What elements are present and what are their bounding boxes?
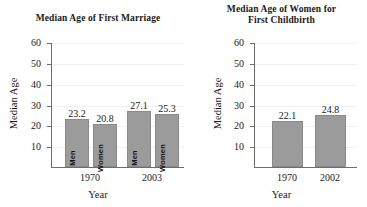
x-tick-label-left-1970: 1970 — [80, 172, 100, 183]
y-tick-label-right-40: 40 — [234, 80, 244, 90]
bar-2003-men[interactable]: 27.1 Men — [127, 111, 151, 167]
chart-title-first-marriage: Median Age of First Marriage — [0, 13, 196, 24]
bar-value-2003-women: 25.3 — [158, 103, 176, 114]
y-tick-label-left-10: 10 — [31, 142, 41, 152]
chart-title-line-2: First Childbirth — [196, 15, 367, 26]
y-tick-label-left-30: 30 — [31, 101, 41, 111]
y-tick-right-30: 30 — [250, 106, 254, 107]
y-axis-label-left: Median Age — [8, 74, 19, 134]
y-tick-right-60: 60 — [250, 43, 254, 44]
bar-value-2003-men: 27.1 — [130, 100, 148, 111]
y-tick-left-10: 10 — [47, 147, 51, 148]
plot-area-right: 60 50 40 30 20 10 — [254, 43, 357, 168]
y-tick-right-50: 50 — [250, 64, 254, 65]
plot-area-left: 60 50 40 30 20 10 — [51, 43, 184, 168]
bar-value-1970-childbirth: 22.1 — [279, 110, 297, 121]
y-tick-right-10: 10 — [250, 147, 254, 148]
bar-value-1970-women: 20.8 — [96, 113, 114, 124]
y-tick-left-30: 30 — [47, 106, 51, 107]
y-tick-right-40: 40 — [250, 85, 254, 86]
figure-container: Median Age of First Marriage Median Age … — [0, 0, 367, 207]
bar-label-2003-women: Women — [158, 144, 167, 172]
bar-value-1970-men: 23.2 — [68, 108, 86, 119]
y-tick-label-right-60: 60 — [234, 38, 244, 48]
bar-label-2003-men: Men — [130, 150, 139, 166]
y-tick-label-left-60: 60 — [31, 38, 41, 48]
chart-panel-first-childbirth: Median Age of Women for First Childbirth… — [196, 0, 367, 207]
y-tick-right-20: 20 — [250, 126, 254, 127]
x-tick-label-left-2003: 2003 — [142, 172, 162, 183]
bar-1970-childbirth[interactable]: 22.1 — [272, 121, 303, 167]
x-axis-line-right — [254, 167, 357, 168]
bar-2003-women[interactable]: 25.3 Women — [155, 114, 179, 167]
y-tick-label-left-20: 20 — [31, 121, 41, 131]
chart-panel-first-marriage: Median Age of First Marriage Median Age … — [0, 0, 196, 207]
y-tick-left-60: 60 — [47, 43, 51, 44]
y-tick-label-left-40: 40 — [31, 80, 41, 90]
y-tick-label-left-50: 50 — [31, 59, 41, 69]
bar-1970-men[interactable]: 23.2 Men — [65, 119, 89, 167]
bar-1970-women[interactable]: 20.8 Women — [93, 124, 117, 167]
x-axis-label-left: Year — [0, 189, 196, 200]
bar-value-2002-childbirth: 24.8 — [322, 104, 340, 115]
y-tick-label-right-20: 20 — [234, 121, 244, 131]
chart-title-line-1: Median Age of Women for — [196, 4, 367, 15]
bar-2002-childbirth[interactable]: 24.8 — [315, 115, 346, 167]
x-tick-label-right-2002: 2002 — [320, 172, 340, 183]
y-tick-left-20: 20 — [47, 126, 51, 127]
y-tick-left-50: 50 — [47, 64, 51, 65]
y-tick-label-right-30: 30 — [234, 101, 244, 111]
y-tick-label-right-50: 50 — [234, 59, 244, 69]
bar-label-1970-women: Women — [96, 144, 105, 172]
y-axis-label-right: Median Age — [212, 74, 223, 134]
y-tick-label-right-10: 10 — [234, 142, 244, 152]
bar-group-right: 22.1 24.8 — [255, 43, 357, 167]
chart-title-first-childbirth: Median Age of Women for First Childbirth — [196, 4, 367, 26]
y-tick-left-40: 40 — [47, 85, 51, 86]
bar-group-left: 23.2 Men 20.8 Women 27.1 Men 25.3 Women — [52, 43, 184, 167]
x-axis-label-right: Year — [196, 189, 367, 200]
bar-label-1970-men: Men — [68, 150, 77, 166]
x-tick-label-right-1970: 1970 — [277, 172, 297, 183]
